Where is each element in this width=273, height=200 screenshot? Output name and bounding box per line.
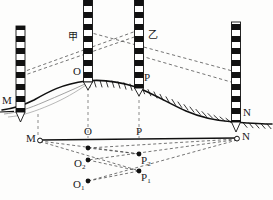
sightline-jia-to-right <box>88 32 240 73</box>
plan-marker-O <box>86 146 91 151</box>
ray-M-to-P1 <box>40 142 140 172</box>
ray-N-to-O-mark <box>88 139 237 148</box>
sightline-left-to-jia <box>22 35 140 76</box>
label-plan-P1: P1 <box>141 172 151 183</box>
label-profile-P: P <box>144 72 150 83</box>
connector-O1-to-P1 <box>88 171 139 181</box>
plan-view-group <box>38 136 240 183</box>
staff-yi-tip <box>135 88 144 96</box>
label-plan-N: N <box>242 131 250 142</box>
label-profile-N: N <box>243 107 251 118</box>
profile-hatching-group <box>88 80 231 122</box>
plan-marker-O1 <box>86 179 91 184</box>
label-plan-O1-subscript: 1 <box>81 184 85 192</box>
staff-right-N <box>232 22 241 132</box>
plan-marker-N <box>235 136 240 141</box>
plan-baseline-MN <box>40 138 237 140</box>
label-plan-O: O <box>84 126 92 137</box>
label-plan-O2-base: O <box>74 157 82 169</box>
staff-left-M <box>16 26 25 122</box>
ray-N-to-O2 <box>88 140 237 161</box>
label-plan-O2-subscript: 2 <box>82 163 86 171</box>
label-plan-P: P <box>136 126 142 137</box>
label-observer-jia: 甲 <box>68 32 78 42</box>
label-plan-P2-subscript: 2 <box>147 160 151 168</box>
plan-connectors <box>88 148 139 181</box>
ray-N-to-O1 <box>88 140 237 181</box>
survey-diagram-figure: 甲 乙 M N O P M N O P O2 O1 P2 P1 <box>0 0 273 200</box>
label-plan-O2: O2 <box>74 158 85 169</box>
elevation-view-group <box>0 0 272 138</box>
staff-right-tip <box>232 122 241 132</box>
plan-rays-from-N <box>88 139 237 181</box>
plan-marker-M <box>38 138 43 143</box>
label-plan-P1-subscript: 1 <box>147 177 151 185</box>
staff-jia <box>84 0 93 90</box>
label-profile-M: M <box>2 95 12 106</box>
sight-lines-group <box>20 30 240 84</box>
staff-left-tip <box>16 112 25 122</box>
label-plan-P2: P2 <box>141 155 151 166</box>
plan-rays-from-M <box>40 141 140 171</box>
ground-stub-left <box>0 111 14 112</box>
label-plan-O1-base: O <box>73 178 81 190</box>
connector-O-to-P2 <box>88 148 139 154</box>
label-observer-yi: 乙 <box>148 30 158 40</box>
plan-marker-O2 <box>86 158 91 163</box>
label-plan-O1: O1 <box>73 179 84 190</box>
diagram-canvas <box>0 0 273 200</box>
label-plan-M: M <box>26 133 36 144</box>
connector-O2-to-P1 <box>88 160 139 171</box>
staff-yi <box>135 0 144 96</box>
label-profile-O: O <box>73 66 81 77</box>
sightline-yi-to-right-lower <box>141 56 238 84</box>
